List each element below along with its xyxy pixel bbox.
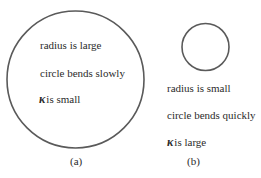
- panel-b-caption: (b): [187, 155, 200, 168]
- panel-a-bends-text: circle bends slowly: [40, 67, 125, 80]
- panel-a-kappa-line: κis small: [39, 93, 80, 106]
- kappa-symbol: κ: [167, 135, 173, 149]
- panel-b-kappa-line: κis large: [167, 136, 206, 149]
- kappa-symbol: κ: [39, 92, 45, 106]
- panel-a-radius-text: radius is large: [40, 39, 102, 52]
- panel-b-bends-text: circle bends quickly: [167, 109, 256, 122]
- panel-b-radius-text: radius is small: [167, 82, 231, 95]
- panel-a-kappa-text: is small: [46, 93, 80, 105]
- panel-a-caption: (a): [70, 155, 82, 168]
- panel-b-kappa-text: is large: [174, 136, 206, 148]
- small-circle: [182, 24, 229, 71]
